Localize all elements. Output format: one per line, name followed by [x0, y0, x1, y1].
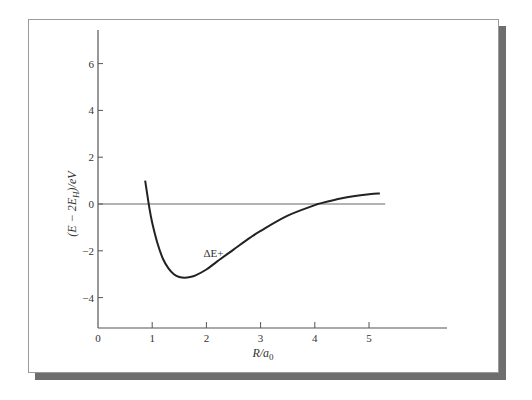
x-tick-label: 4: [312, 332, 318, 344]
series-curve: [145, 181, 380, 278]
x-tick-label: 5: [366, 332, 372, 344]
axes: [98, 30, 447, 328]
energy-curve: [145, 181, 380, 278]
y-tick-label: 2: [89, 151, 95, 163]
y-axis-label: (E − 2EH)/eV: [65, 170, 81, 237]
y-tick-label: 6: [89, 58, 95, 70]
curve-annotation: ΔE+: [203, 247, 223, 259]
y-tick-label: −2: [82, 245, 94, 257]
y-tick-label: 4: [89, 104, 95, 116]
chart: 6420−2−4012345 R/a0 (E − 2EH)/eV ΔE+: [0, 0, 532, 400]
annotations: ΔE+: [203, 247, 223, 259]
x-tick-label: 1: [149, 332, 155, 344]
y-tick-label: −4: [82, 292, 94, 304]
x-tick-label: 2: [204, 332, 210, 344]
x-tick-label: 3: [258, 332, 264, 344]
x-tick-label: 0: [95, 332, 101, 344]
x-axis-label: R/a0: [251, 346, 274, 362]
y-tick-label: 0: [89, 198, 95, 210]
